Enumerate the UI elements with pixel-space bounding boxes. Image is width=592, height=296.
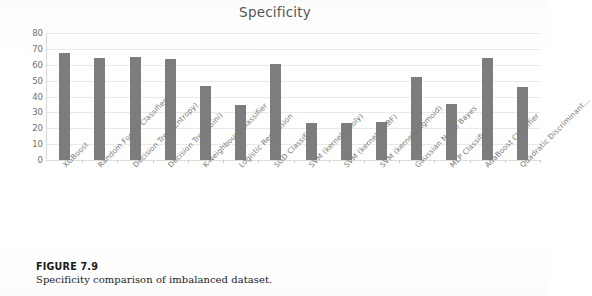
gridline	[47, 128, 540, 129]
y-tick-label: 40	[32, 92, 43, 102]
y-tick-label: 10	[32, 139, 43, 149]
bar	[165, 59, 176, 160]
y-tick-label: 20	[32, 123, 43, 133]
bar	[59, 53, 70, 160]
y-tick-label: 60	[32, 60, 43, 70]
chart-title: Specificity	[0, 4, 550, 20]
y-tick-label: 30	[32, 107, 43, 117]
figure-panel: Specificity 01020304050607080 XGBoostRan…	[0, 0, 550, 250]
y-tick-label: 80	[32, 28, 43, 38]
bar	[270, 64, 281, 160]
bar	[482, 58, 493, 160]
gridline	[47, 49, 540, 50]
figure-caption-text: Specificity comparison of imbalanced dat…	[36, 274, 516, 285]
gridline	[47, 81, 540, 82]
gridline	[47, 33, 540, 34]
bar	[130, 57, 141, 160]
x-axis-category-labels: XGBoostRandom Forest ClassifierDecision …	[0, 163, 550, 247]
y-tick-label: 50	[32, 76, 43, 86]
gridline	[47, 65, 540, 66]
figure-caption-block: FIGURE 7.9 Specificity comparison of imb…	[36, 261, 516, 285]
figure-number: FIGURE 7.9	[36, 261, 516, 272]
bar	[94, 58, 105, 160]
y-tick-label: 70	[32, 44, 43, 54]
gridline	[47, 97, 540, 98]
